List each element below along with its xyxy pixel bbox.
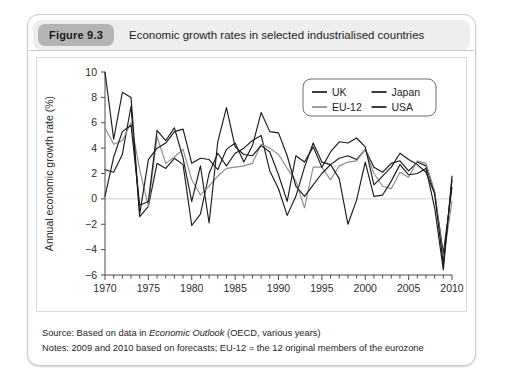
series-line-eu-12 bbox=[105, 123, 452, 260]
y-axis-title: Annual economic growth rate (%) bbox=[43, 96, 55, 251]
x-tick-label: 1980 bbox=[180, 282, 204, 294]
figure-title: Economic growth rates in selected indust… bbox=[129, 29, 424, 41]
y-tick-label: 10 bbox=[85, 66, 97, 78]
y-tick-label: 2 bbox=[91, 167, 97, 179]
y-tick-label: −4 bbox=[85, 243, 97, 255]
notes-line: Notes: 2009 and 2010 based on forecasts;… bbox=[42, 341, 465, 355]
legend-label-uk: UK bbox=[332, 86, 347, 98]
x-tick-label: 2010 bbox=[440, 282, 464, 294]
series-line-uk bbox=[105, 106, 452, 253]
legend-label-japan: Japan bbox=[392, 86, 421, 98]
header-divider bbox=[29, 50, 474, 51]
y-tick-label: 0 bbox=[91, 192, 97, 204]
plot-area: −6−4−20246810197019751980198519901995200… bbox=[36, 57, 467, 312]
y-tick-label: −6 bbox=[85, 269, 97, 281]
legend-label-eu-12: EU-12 bbox=[332, 101, 362, 113]
x-tick-label: 2000 bbox=[354, 282, 378, 294]
line-chart: −6−4−20246810197019751980198519901995200… bbox=[37, 58, 468, 311]
x-tick-label: 1975 bbox=[137, 282, 161, 294]
series-line-usa bbox=[105, 108, 452, 265]
x-tick-label: 1990 bbox=[267, 282, 291, 294]
y-tick-label: 4 bbox=[91, 142, 97, 154]
source-italic-title: Economic Outlook bbox=[149, 328, 224, 338]
x-tick-label: 2005 bbox=[397, 282, 421, 294]
figure-footnotes: Source: Based on data in Economic Outloo… bbox=[42, 326, 465, 355]
y-tick-label: −2 bbox=[85, 218, 97, 230]
figure-number-badge: Figure 9.3 bbox=[38, 24, 114, 46]
source-prefix: Source: Based on data in bbox=[42, 328, 149, 338]
y-tick-label: 6 bbox=[91, 116, 97, 128]
figure-header: Figure 9.3 Economic growth rates in sele… bbox=[33, 20, 470, 50]
source-line: Source: Based on data in Economic Outloo… bbox=[42, 326, 465, 340]
figure-card: Figure 9.3 Economic growth rates in sele… bbox=[27, 14, 476, 366]
legend-label-usa: USA bbox=[392, 101, 414, 113]
source-suffix: (OECD, various years) bbox=[224, 328, 320, 338]
x-tick-label: 1970 bbox=[93, 282, 117, 294]
y-tick-label: 8 bbox=[91, 91, 97, 103]
x-tick-label: 1995 bbox=[310, 282, 334, 294]
x-tick-label: 1985 bbox=[223, 282, 247, 294]
